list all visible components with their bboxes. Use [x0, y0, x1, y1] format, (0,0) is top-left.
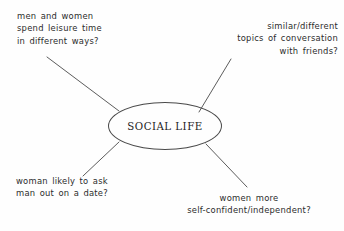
branch-label-topics[interactable]: similar/different topics of conversation… — [237, 20, 338, 57]
center-node-label: SOCIAL LIFE — [127, 121, 202, 132]
mind-map-canvas: SOCIAL LIFE men and women spend leisure … — [0, 0, 344, 231]
connector-line-confidence — [206, 144, 247, 187]
branch-label-topics-line-2: topics of conversation — [237, 32, 338, 44]
center-node-social-life[interactable]: SOCIAL LIFE — [108, 102, 222, 150]
branch-label-confidence-line-2: self-confident/independent? — [156, 204, 342, 216]
branch-label-topics-line-3: with friends? — [237, 45, 338, 57]
branch-label-topics-line-1: similar/different — [237, 20, 338, 32]
branch-label-leisure-line-1: men and women — [17, 10, 102, 22]
branch-label-date-line-1: woman likely to ask — [16, 175, 108, 187]
branch-label-leisure[interactable]: men and women spend leisure time in diff… — [17, 10, 102, 47]
branch-label-date[interactable]: woman likely to ask man out on a date? — [16, 175, 108, 200]
branch-label-date-line-2: man out on a date? — [16, 187, 108, 199]
branch-label-confidence-line-1: women more — [156, 192, 342, 204]
connector-line-date — [83, 142, 119, 176]
branch-label-leisure-line-3: in different ways? — [17, 35, 102, 47]
connector-line-leisure — [47, 57, 119, 111]
branch-label-confidence[interactable]: women more self-confident/independent? — [156, 192, 342, 217]
branch-label-leisure-line-2: spend leisure time — [17, 22, 102, 34]
connector-line-topics — [199, 59, 231, 112]
